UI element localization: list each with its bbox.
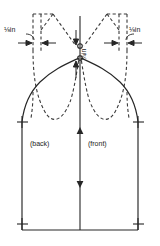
- cap-curve-left: [22, 58, 79, 122]
- grainline-arrowhead-up: [77, 127, 84, 134]
- measure-arrow-right-out: [112, 40, 118, 45]
- seam-allowance-measure-right: [104, 40, 142, 45]
- back-section-label: (back): [30, 140, 49, 147]
- cap-height-measure: [73, 30, 78, 78]
- dashed-right-peak-leg: [107, 14, 119, 30]
- sleeve-pattern-svg: [0, 0, 160, 246]
- dashed-tail-left: [31, 92, 33, 118]
- seam-allowance-label-right: ⅛in: [129, 26, 140, 33]
- cap-curve-right: [81, 58, 138, 122]
- pattern-diagram-canvas: ⅛in ⅛in ¾in (back) (front): [0, 0, 160, 246]
- measure-arrow-left-in: [26, 40, 32, 45]
- front-section-label: (front): [88, 140, 107, 147]
- dashed-cap-curve-left: [33, 50, 79, 119]
- grainline-arrowhead-down: [77, 181, 84, 188]
- cap-height-label: ¾in: [80, 49, 87, 60]
- seam-allowance-measure-left: [18, 40, 56, 45]
- dashed-diag-left: [53, 14, 76, 46]
- seam-allowance-label-left: ⅛in: [4, 26, 15, 33]
- cap-measure-arrow-down: [73, 39, 78, 45]
- dashed-diag-right: [84, 14, 107, 46]
- dashed-left-peak-leg: [41, 14, 53, 30]
- cap-measure-arrow-up: [73, 61, 78, 67]
- measure-arrow-left-out: [42, 40, 48, 45]
- dashed-tail-right: [127, 92, 129, 118]
- measure-arrow-right-in: [128, 40, 134, 45]
- dashed-cap-curve-right: [81, 50, 127, 119]
